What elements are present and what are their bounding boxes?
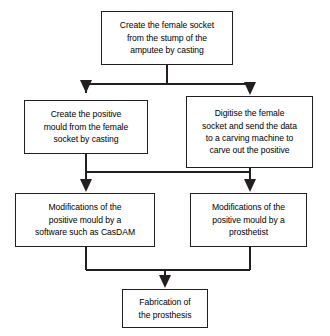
arrowhead-to-fabrication [159, 275, 171, 288]
node-modify-positive-mould-software: Modifications of the positive mould by a… [15, 193, 155, 247]
arrowhead-to-modify-software [80, 179, 92, 192]
node-modify-positive-mould-prosthetist: Modifications of the positive mould by a… [190, 193, 307, 247]
node-create-positive-mould-label: Create the positive mould from the femal… [28, 108, 144, 145]
node-digitise-socket: Digitise the female socket and send the … [186, 96, 313, 168]
node-digitise-socket-label: Digitise the female socket and send the … [190, 107, 309, 157]
arrowhead-to-digitise-socket [244, 82, 256, 95]
flowchart-diagram: Create the female socket from the stump … [0, 0, 330, 336]
arrowhead-to-create-positive-mould [80, 80, 92, 93]
node-fabrication-of-prosthesis: Fabrication of the prosthesis [122, 289, 208, 328]
node-modify-prosthetist-label: Modifications of the positive mould by a… [194, 201, 303, 238]
node-create-positive-mould: Create the positive mould from the femal… [24, 100, 148, 154]
node-create-female-socket: Create the female socket from the stump … [101, 11, 233, 65]
node-create-female-socket-label: Create the female socket from the stump … [105, 19, 229, 56]
arrowhead-to-modify-prosthetist [244, 179, 256, 192]
node-modify-software-label: Modifications of the positive mould by a… [19, 201, 151, 238]
node-fabrication-label: Fabrication of the prosthesis [126, 296, 204, 321]
